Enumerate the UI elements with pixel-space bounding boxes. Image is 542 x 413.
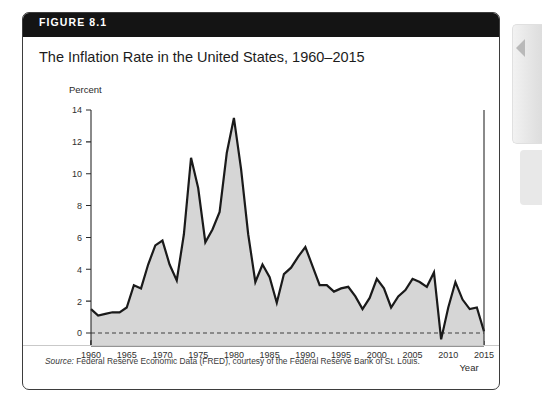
y-axis-ticks: 02468101214 — [72, 105, 91, 338]
footer-divider — [23, 345, 500, 346]
svg-text:2010: 2010 — [438, 350, 458, 360]
svg-text:0: 0 — [77, 328, 82, 338]
figure-card: FIGURE 8.1 The Inflation Rate in the Uni… — [22, 12, 500, 390]
x-axis-title: Year — [459, 362, 478, 373]
chart-area-fill — [91, 118, 484, 346]
y-axis-title: Percent — [69, 84, 102, 95]
chevron-left-icon — [516, 39, 525, 57]
svg-text:12: 12 — [72, 137, 82, 147]
svg-text:2015: 2015 — [474, 350, 494, 360]
source-label: Source: — [45, 356, 74, 366]
source-note: Source: Federal Reserve Economic Data (F… — [45, 356, 420, 366]
svg-text:8: 8 — [77, 201, 82, 211]
chart-plot-area: Percent Year 02468101214 196019651970197… — [23, 13, 500, 390]
side-panel-tab[interactable] — [512, 24, 542, 144]
side-panel-tab-secondary[interactable] — [520, 150, 542, 205]
svg-text:10: 10 — [72, 169, 82, 179]
svg-text:2: 2 — [77, 297, 82, 307]
svg-text:14: 14 — [72, 105, 82, 115]
inflation-area-chart: Percent Year 02468101214 196019651970197… — [23, 13, 500, 390]
svg-text:6: 6 — [77, 233, 82, 243]
source-text: Federal Reserve Economic Data (FRED), co… — [74, 356, 420, 366]
svg-text:4: 4 — [77, 265, 82, 275]
